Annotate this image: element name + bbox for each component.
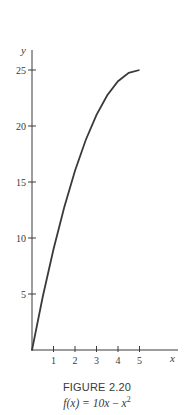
formula-exponent: 2 <box>127 395 131 404</box>
y-tick-label: 20 <box>16 121 26 132</box>
y-tick-label: 10 <box>16 233 26 244</box>
y-ticks: 510152025 <box>16 65 36 300</box>
y-tick-label: 25 <box>16 65 26 76</box>
y-axis-label: y <box>20 44 26 56</box>
x-tick-label: 4 <box>116 355 121 366</box>
x-tick-label: 3 <box>94 355 99 366</box>
figure-caption-title: FIGURE 2.20 <box>0 381 194 393</box>
x-ticks: 12345 <box>51 346 142 366</box>
figure-caption-formula: f(x) = 10x − x2 <box>0 395 194 409</box>
formula-minus: − <box>109 397 121 409</box>
x-tick-label: 5 <box>137 355 142 366</box>
y-tick-label: 15 <box>16 177 26 188</box>
x-tick-label: 2 <box>73 355 78 366</box>
x-tick-label: 1 <box>51 355 56 366</box>
x-axis-label: x <box>169 352 175 364</box>
function-plot: y x 510152025 12345 <box>0 0 194 415</box>
formula-lhs: f(x) = 10 <box>63 397 104 409</box>
function-curve <box>32 70 140 350</box>
y-tick-label: 5 <box>21 289 26 300</box>
